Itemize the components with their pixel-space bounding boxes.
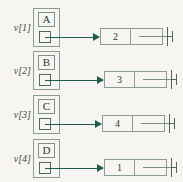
node-value-cell: 1 bbox=[105, 160, 135, 175]
node-value-cell: 4 bbox=[103, 116, 133, 131]
arrow-head-icon bbox=[93, 33, 100, 41]
pointer-arrow bbox=[45, 33, 99, 42]
list-node: 3 bbox=[104, 71, 167, 88]
arrow-shaft bbox=[45, 80, 103, 81]
vertex-index-label: v[2] bbox=[4, 65, 31, 76]
adjacency-row: v[2] B 3 bbox=[0, 49, 183, 92]
arrow-shaft bbox=[45, 168, 103, 169]
vertex-index-label: v[1] bbox=[4, 22, 31, 33]
adjacency-row: v[3] C 4 bbox=[0, 93, 183, 136]
vertex-letter-cell: B bbox=[38, 55, 55, 70]
adjacency-row: v[4] D 1 bbox=[0, 137, 183, 180]
pointer-arrow bbox=[45, 164, 103, 173]
arrow-head-icon bbox=[95, 120, 102, 128]
vertex-index-text: v[3] bbox=[14, 109, 31, 120]
arrow-shaft bbox=[45, 124, 101, 125]
arrow-head-icon bbox=[97, 76, 104, 84]
vertex-index-label: v[3] bbox=[4, 109, 31, 120]
vertex-letter-cell: C bbox=[38, 99, 55, 114]
null-terminator-icon bbox=[168, 158, 181, 177]
vertex-letter-cell: A bbox=[38, 12, 55, 27]
terminator-bar-short bbox=[172, 31, 173, 42]
pointer-arrow bbox=[45, 120, 101, 129]
list-node: 1 bbox=[104, 159, 167, 176]
vertex-index-label: v[4] bbox=[4, 153, 31, 164]
pointer-arrow bbox=[45, 76, 103, 85]
null-terminator-icon bbox=[166, 114, 179, 133]
adjacency-row: v[1] A 2 bbox=[0, 6, 183, 49]
null-terminator-icon bbox=[164, 27, 177, 46]
adjacency-list-diagram: v[1] A 2 v[2] B bbox=[0, 0, 183, 182]
node-value-cell: 2 bbox=[101, 29, 131, 44]
list-node: 4 bbox=[102, 115, 165, 132]
node-next-cell bbox=[135, 160, 166, 175]
vertex-index-text: v[4] bbox=[14, 153, 31, 164]
node-next-cell bbox=[131, 29, 162, 44]
vertex-letter-cell: D bbox=[38, 143, 55, 158]
terminator-bar-short bbox=[174, 118, 175, 129]
arrow-head-icon bbox=[97, 164, 104, 172]
vertex-index-text: v[2] bbox=[14, 65, 31, 76]
null-terminator-icon bbox=[168, 70, 181, 89]
arrow-shaft bbox=[45, 37, 99, 38]
terminator-bar-short bbox=[176, 74, 177, 85]
node-value-cell: 3 bbox=[105, 72, 135, 87]
node-next-cell bbox=[133, 116, 164, 131]
list-node: 2 bbox=[100, 28, 163, 45]
vertex-index-text: v[1] bbox=[14, 22, 31, 33]
node-next-cell bbox=[135, 72, 166, 87]
terminator-bar-short bbox=[176, 162, 177, 173]
